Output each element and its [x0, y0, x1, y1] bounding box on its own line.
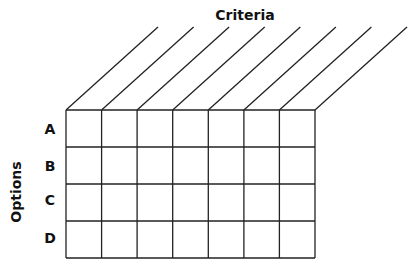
criteria-diagonal [315, 27, 407, 110]
criteria-diagonal [66, 27, 158, 110]
criteria-diagonal [279, 27, 371, 110]
criteria-diagonal [137, 27, 229, 110]
criteria-diagonal [173, 27, 265, 110]
matrix-grid [66, 27, 407, 258]
options-label: Options [8, 161, 24, 222]
criteria-diagonal [244, 27, 336, 110]
criteria-diagonal [208, 27, 300, 110]
row-label-c: C [45, 192, 55, 208]
decision-matrix-diagram: Criteria Options A B C D [0, 0, 413, 264]
row-label-a: A [45, 121, 56, 137]
criteria-label: Criteria [215, 7, 274, 23]
row-label-b: B [45, 158, 56, 174]
criteria-diagonal [102, 27, 194, 110]
row-label-d: D [44, 230, 56, 246]
